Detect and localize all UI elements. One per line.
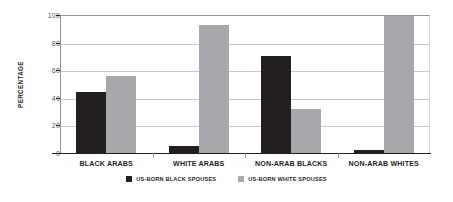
- bar: [169, 146, 199, 153]
- x-axis-category-label: BLACK ARABS: [60, 160, 153, 168]
- y-axis-title-label: PERCENTAGE: [17, 61, 24, 108]
- x-axis-category-label: NON-ARAB WHITES: [338, 160, 431, 168]
- y-axis-title: PERCENTAGE: [13, 15, 27, 153]
- bars-layer: [60, 15, 430, 153]
- bar: [384, 16, 414, 153]
- legend-item-us-born-black-spouses[interactable]: US-BORN BLACK SPOUSES: [126, 176, 216, 182]
- legend-item-label: US-BORN BLACK SPOUSES: [136, 176, 216, 182]
- x-axis-category-label: NON-ARAB BLACKS: [245, 160, 338, 168]
- bar: [354, 150, 384, 153]
- x-axis-baseline: [52, 153, 431, 154]
- category-separator-tick: [338, 153, 339, 158]
- bar: [106, 76, 136, 153]
- x-axis-labels: BLACK ARABSWHITE ARABSNON-ARAB BLACKSNON…: [60, 160, 430, 172]
- bar: [199, 25, 229, 153]
- dark-swatch-icon: [126, 176, 132, 182]
- bar: [76, 92, 106, 153]
- category-separator-tick: [153, 153, 154, 158]
- x-axis-category-label: WHITE ARABS: [153, 160, 246, 168]
- y-axis-ticks: 020406080100: [26, 15, 60, 153]
- category-separator-tick: [245, 153, 246, 158]
- legend-item-label: US-BORN WHITE SPOUSES: [248, 176, 326, 182]
- chart-legend: US-BORN BLACK SPOUSES US-BORN WHITE SPOU…: [0, 176, 453, 182]
- light-swatch-icon: [238, 176, 244, 182]
- legend-item-us-born-white-spouses[interactable]: US-BORN WHITE SPOUSES: [238, 176, 326, 182]
- bar: [261, 56, 291, 153]
- bar: [291, 109, 321, 153]
- bar-chart-figure: PERCENTAGE 020406080100 BLACK ARABSWHITE…: [0, 0, 453, 202]
